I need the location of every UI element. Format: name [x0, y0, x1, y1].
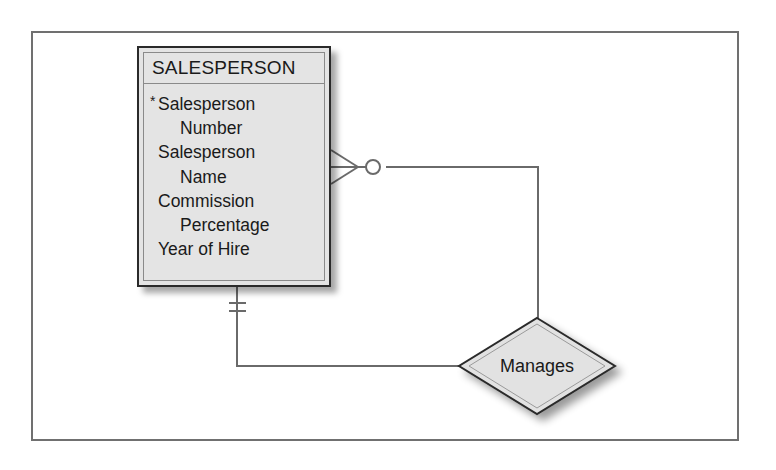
attribute-salesperson-number: *Salesperson [158, 92, 324, 116]
attribute-year-of-hire: Year of Hire [158, 237, 324, 261]
entity-body: SALESPERSON *Salesperson Number Salesper… [143, 52, 325, 281]
one-side-connector [229, 287, 460, 366]
many-side-connector [331, 150, 538, 318]
attribute-commission-percentage-cont: Percentage [158, 213, 324, 237]
relationship-label: Manages [459, 346, 615, 386]
attribute-list: *Salesperson Number Salesperson Name Com… [144, 84, 324, 261]
attribute-salesperson-name: Salesperson [158, 140, 324, 164]
crows-foot-icon [331, 150, 366, 184]
attribute-salesperson-name-cont: Name [158, 165, 324, 189]
entity-salesperson[interactable]: SALESPERSON *Salesperson Number Salesper… [137, 46, 331, 287]
primary-key-icon: * [150, 89, 155, 113]
optional-circle-icon [366, 160, 380, 174]
attribute-salesperson-number-cont: Number [158, 116, 324, 140]
attribute-commission-percentage: Commission [158, 189, 324, 213]
entity-title: SALESPERSON [144, 53, 324, 84]
relationship-lines [0, 0, 776, 470]
